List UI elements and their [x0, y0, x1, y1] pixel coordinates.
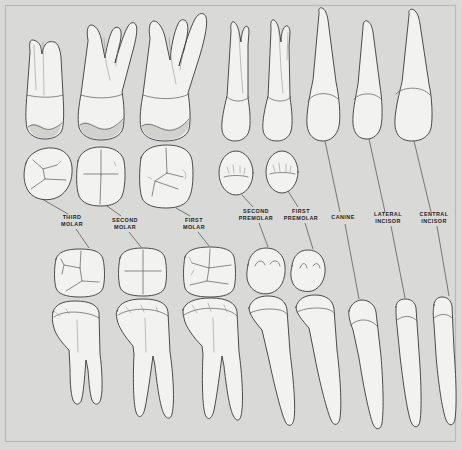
- occlusal-lower-first-molar[interactable]: [184, 247, 236, 297]
- occlusal-upper-first-molar[interactable]: [140, 145, 193, 208]
- label-central-incisor: CENTRAL INCISOR: [420, 211, 449, 224]
- label-canine: CANINE: [331, 214, 354, 220]
- label-lateral-incisor-line1: LATERAL: [374, 211, 402, 217]
- label-first-premolar-line1: FIRST: [292, 208, 310, 214]
- label-first-molar-line1: FIRST: [185, 217, 203, 223]
- label-second-premolar-line1: SECOND: [243, 208, 269, 214]
- occlusal-upper-second-premolar-outline: [219, 151, 253, 195]
- label-canine-line1: CANINE: [331, 214, 354, 220]
- occlusal-lower-first-premolar-outline: [291, 250, 325, 292]
- label-central-incisor-line2: INCISOR: [421, 218, 447, 224]
- label-third-molar-line1: THIRD: [63, 214, 82, 220]
- label-second-premolar: SECOND PREMOLAR: [239, 208, 273, 221]
- label-first-molar-line2: MOLAR: [183, 224, 205, 230]
- label-second-premolar-line2: PREMOLAR: [239, 215, 273, 221]
- occlusal-upper-first-premolar[interactable]: [266, 151, 298, 193]
- occlusal-upper-second-premolar[interactable]: [219, 151, 253, 195]
- occlusal-upper-third-molar[interactable]: [24, 148, 72, 200]
- label-second-molar-line1: SECOND: [112, 217, 138, 223]
- label-central-incisor-line1: CENTRAL: [420, 211, 449, 217]
- occlusal-lower-second-molar[interactable]: [119, 248, 167, 296]
- occlusal-lower-third-molar[interactable]: [55, 249, 105, 297]
- tooth-upper-third-molar[interactable]: [26, 40, 64, 139]
- label-third-molar-line2: MOLAR: [61, 221, 83, 227]
- occlusal-lower-second-molar-outline: [119, 248, 167, 296]
- label-first-premolar-line2: PREMOLAR: [284, 215, 318, 221]
- upper-third-molar-outline: [26, 40, 64, 139]
- label-lateral-incisor-line2: INCISOR: [375, 218, 401, 224]
- label-second-molar: SECOND MOLAR: [112, 217, 138, 230]
- occlusal-upper-third-molar-outline: [24, 148, 72, 200]
- label-second-molar-line2: MOLAR: [114, 224, 136, 230]
- occlusal-upper-second-molar[interactable]: [77, 147, 125, 206]
- occlusal-lower-second-premolar[interactable]: [247, 248, 285, 294]
- occlusal-lower-second-premolar-outline: [247, 248, 285, 294]
- label-third-molar: THIRD MOLAR: [61, 214, 83, 227]
- tooth-chart-canvas: THIRD MOLAR SECOND MOLAR FIRST MOLAR SEC…: [0, 0, 462, 450]
- occlusal-upper-first-premolar-outline: [266, 151, 298, 193]
- label-lateral-incisor: LATERAL INCISOR: [374, 211, 402, 224]
- label-first-molar: FIRST MOLAR: [183, 217, 205, 230]
- occlusal-lower-first-premolar[interactable]: [291, 250, 325, 292]
- permanent-dentition-diagram: THIRD MOLAR SECOND MOLAR FIRST MOLAR SEC…: [0, 0, 462, 450]
